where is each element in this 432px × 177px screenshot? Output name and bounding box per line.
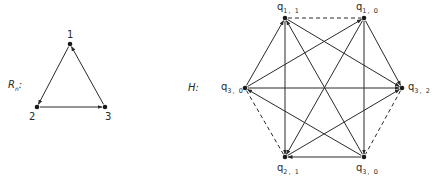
node-label: 2 [29, 111, 35, 122]
triangle-edge [38, 47, 68, 105]
node-label: q3, 0 [221, 81, 244, 95]
graph-node [362, 155, 367, 160]
node-label: q3, 2 [408, 81, 431, 95]
node-label: q2, 1 [277, 162, 300, 176]
node-label: 1 [67, 29, 73, 40]
graph-node [362, 16, 367, 21]
node-label: 3 [105, 111, 111, 122]
directed-edge [365, 21, 400, 86]
graph-label-h: H: [188, 82, 199, 93]
node-label: q3, 0 [356, 162, 379, 176]
graph-node [400, 86, 405, 91]
diagram-canvas [0, 0, 432, 177]
node-label: q1, 0 [356, 1, 379, 15]
graph-node [35, 105, 40, 110]
dashed-edge [365, 91, 400, 155]
graph-node [68, 42, 73, 47]
hexagon-edges [246, 18, 400, 157]
graph-label-r: Rn: [8, 79, 22, 92]
graph-node [103, 105, 108, 110]
triangle-edges [38, 47, 103, 107]
graph-node [283, 155, 288, 160]
triangle-edge [71, 47, 103, 105]
graph-node [283, 16, 288, 21]
node-label: q1, 1 [277, 1, 300, 15]
